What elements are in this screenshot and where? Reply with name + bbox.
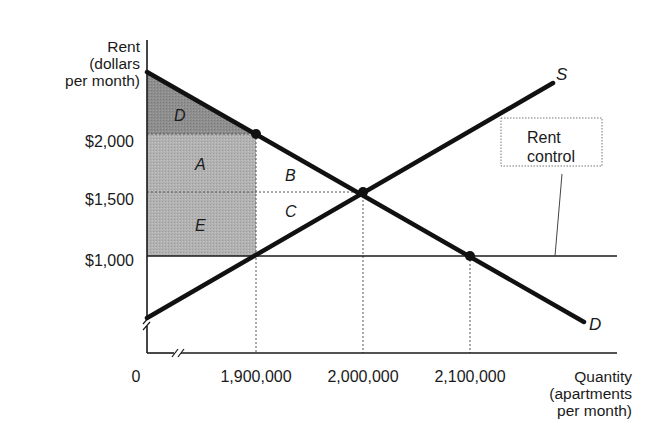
- x-tick-2100000: 2,100,000: [434, 368, 505, 385]
- rent-control-label-1: Rent: [527, 129, 561, 146]
- x-axis-title-2: (apartments: [549, 385, 632, 402]
- x-axis-title-1: Quantity: [574, 368, 632, 385]
- point-qd-2100000: [465, 251, 475, 261]
- demand-label: D: [589, 315, 601, 334]
- y-tick-2000: $2,000: [85, 133, 134, 150]
- rent-control-chart: Rent control S D D A E B C Rent (dollars…: [0, 0, 668, 447]
- region-label-d: D: [174, 107, 186, 124]
- axis-break-marks: [143, 316, 184, 357]
- x-tick-2000000: 2,000,000: [327, 368, 398, 385]
- x-tick-0: 0: [132, 368, 141, 385]
- region-label-c: C: [285, 203, 297, 220]
- y-axis-title-3: per month): [65, 72, 140, 89]
- x-tick-1900000: 1,900,000: [220, 368, 291, 385]
- y-axis-title-1: Rent: [107, 38, 140, 55]
- y-tick-1000: $1,000: [85, 252, 134, 269]
- y-tick-1500: $1,500: [85, 191, 134, 208]
- supply-label: S: [556, 65, 568, 84]
- y-axis-title-2: (dollars: [89, 55, 140, 72]
- point-qd-1900000: [251, 129, 261, 139]
- rent-control-label-2: control: [527, 148, 575, 165]
- x-axis-title-3: per month): [557, 402, 632, 419]
- rent-control-leader: [555, 174, 562, 256]
- point-equilibrium: [358, 187, 368, 197]
- region-label-e: E: [195, 217, 206, 234]
- region-label-b: B: [285, 167, 296, 184]
- region-label-a: A: [194, 156, 206, 173]
